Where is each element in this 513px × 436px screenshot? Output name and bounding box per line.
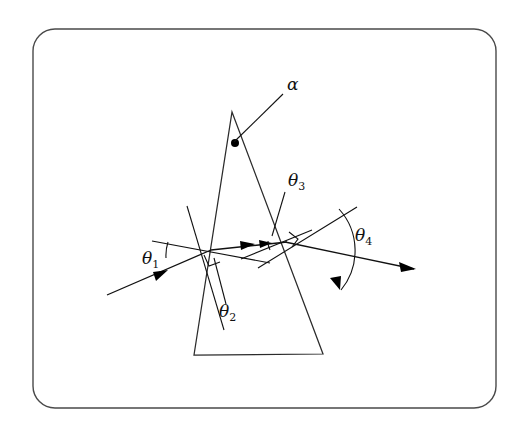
label-alpha-glyph: α — [287, 74, 299, 94]
label-theta3-subscript: 3 — [298, 180, 305, 193]
label-theta4-glyph: θ — [355, 225, 365, 245]
entry-right-angle-marker — [204, 255, 220, 266]
alpha-leader-line — [234, 94, 283, 142]
label-theta1: θ1 — [142, 248, 159, 271]
figure-frame-border — [33, 29, 496, 408]
incident-ray-arrowhead — [153, 270, 168, 281]
exit-normal-line — [258, 207, 357, 268]
label-theta3: θ3 — [288, 170, 305, 193]
label-theta4-subscript: 4 — [365, 235, 372, 248]
outgoing-ray-arrowhead — [399, 262, 416, 272]
outgoing-refracted-ray — [285, 242, 414, 269]
figure-page: α θ1 θ2 θ3 θ4 — [0, 0, 513, 436]
label-theta1-glyph: θ — [142, 248, 152, 268]
label-theta1-subscript: 1 — [152, 258, 159, 271]
label-theta2-glyph: θ — [219, 301, 229, 321]
theta4-arc-arrowhead — [330, 276, 341, 290]
theta4-arc — [339, 209, 355, 290]
theta2-leader-line — [214, 258, 226, 304]
apex-marker-dot — [231, 139, 239, 147]
label-theta4: θ4 — [355, 225, 372, 248]
theta3-leader-line — [272, 192, 285, 236]
label-theta3-glyph: θ — [288, 170, 298, 190]
theta1-arc — [166, 242, 168, 258]
label-alpha: α — [287, 74, 299, 94]
label-theta2-subscript: 2 — [229, 311, 236, 324]
label-theta2: θ2 — [219, 301, 236, 324]
prism-refraction-figure: α θ1 θ2 θ3 θ4 — [0, 0, 513, 436]
